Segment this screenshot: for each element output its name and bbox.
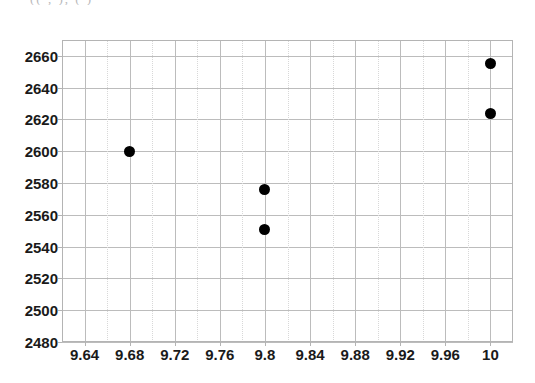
gridline-horizontal: [62, 56, 513, 57]
y-tick-label: 2480: [25, 334, 58, 351]
x-tick-label: 10: [482, 346, 499, 363]
gridline-vertical-minor: [197, 40, 198, 342]
x-tick-label: 9.8: [255, 346, 276, 363]
y-tick-mark: [58, 88, 62, 89]
plot-area: [62, 40, 513, 342]
y-tick-label: 2660: [25, 47, 58, 64]
y-tick-label: 2600: [25, 143, 58, 160]
gridline-vertical: [310, 40, 311, 342]
gridline-vertical: [85, 40, 86, 342]
gridline-horizontal: [62, 247, 513, 248]
plot-frame-right: [512, 40, 513, 342]
y-tick-label: 2560: [25, 206, 58, 223]
gridline-vertical-minor: [242, 40, 243, 342]
gridline-horizontal: [62, 183, 513, 184]
x-tick-label: 9.76: [205, 346, 234, 363]
data-point: [259, 184, 270, 195]
y-tick-mark: [58, 119, 62, 120]
y-axis-tick-labels: 2480250025202540256025802600262026402660: [0, 40, 58, 342]
gridline-vertical-minor: [152, 40, 153, 342]
gridline-vertical-minor: [423, 40, 424, 342]
gridline-horizontal: [62, 215, 513, 216]
x-axis-tick-labels: 9.649.689.729.769.89.849.889.929.9610: [62, 346, 513, 372]
gridline-horizontal: [62, 88, 513, 89]
x-tick-label: 9.72: [160, 346, 189, 363]
gridline-vertical: [220, 40, 221, 342]
gridline-vertical: [490, 40, 491, 342]
x-tick-label: 9.88: [341, 346, 370, 363]
gridline-vertical-minor: [107, 40, 108, 342]
gridline-vertical-minor: [288, 40, 289, 342]
gridline-horizontal: [62, 278, 513, 279]
data-point: [485, 108, 496, 119]
data-point: [124, 146, 135, 157]
y-tick-label: 2500: [25, 302, 58, 319]
y-tick-mark: [58, 278, 62, 279]
gridline-vertical: [400, 40, 401, 342]
y-tick-label: 2620: [25, 111, 58, 128]
y-tick-mark: [58, 183, 62, 184]
gridline-vertical-minor: [468, 40, 469, 342]
y-tick-label: 2580: [25, 175, 58, 192]
gridline-vertical-minor: [333, 40, 334, 342]
y-tick-mark: [58, 247, 62, 248]
y-tick-mark: [58, 151, 62, 152]
plot-frame-left: [62, 40, 63, 342]
gridline-vertical: [175, 40, 176, 342]
scatter-plot-figure: (( , ), ( ) 2480250025202540256025802600…: [0, 0, 535, 383]
y-tick-mark: [58, 56, 62, 57]
x-tick-label: 9.84: [295, 346, 324, 363]
gridline-vertical: [130, 40, 131, 342]
x-tick-label: 9.96: [431, 346, 460, 363]
y-tick-label: 2520: [25, 270, 58, 287]
y-tick-mark: [58, 342, 62, 343]
y-tick-mark: [58, 215, 62, 216]
y-tick-mark: [58, 310, 62, 311]
y-tick-label: 2540: [25, 238, 58, 255]
gridline-horizontal: [62, 310, 513, 311]
y-tick-label: 2640: [25, 79, 58, 96]
cropped-title-fragment: (( , ), ( ): [30, 0, 330, 5]
plot-frame-top: [62, 40, 513, 41]
gridline-horizontal: [62, 119, 513, 120]
data-point: [485, 58, 496, 69]
gridline-vertical-minor: [378, 40, 379, 342]
x-tick-label: 9.64: [70, 346, 99, 363]
gridline-vertical: [355, 40, 356, 342]
gridline-vertical: [445, 40, 446, 342]
x-tick-label: 9.92: [386, 346, 415, 363]
x-tick-label: 9.68: [115, 346, 144, 363]
data-point: [259, 224, 270, 235]
